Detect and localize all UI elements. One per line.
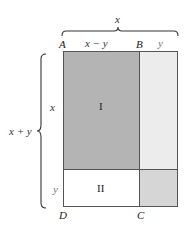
point-B: B xyxy=(136,39,143,50)
side-brace-label: x + y xyxy=(9,126,32,137)
top-brace-label: x xyxy=(115,14,120,25)
region-I-label: I xyxy=(99,101,103,112)
top-segment-y: y xyxy=(158,38,163,49)
side-segment-x: x xyxy=(50,102,55,113)
region-II-label: II xyxy=(97,183,104,194)
side-segment-y: y xyxy=(53,184,58,195)
top-segment-x-minus-y: x − y xyxy=(85,38,108,49)
point-A: A xyxy=(59,39,66,50)
point-C: C xyxy=(137,210,144,221)
diagram-lines xyxy=(0,0,189,227)
point-D: D xyxy=(59,210,67,221)
